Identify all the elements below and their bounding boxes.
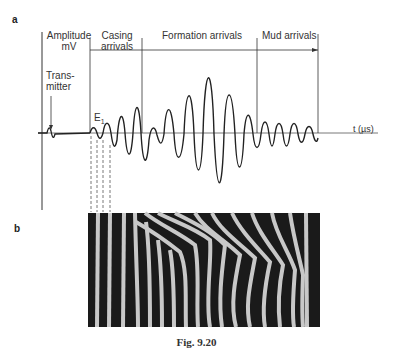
arrow-icon — [312, 48, 318, 52]
vdl-image — [88, 213, 320, 327]
figure-caption: Fig. 9.20 — [0, 336, 393, 348]
waveform — [90, 78, 318, 183]
waveform-diagram — [0, 0, 393, 348]
